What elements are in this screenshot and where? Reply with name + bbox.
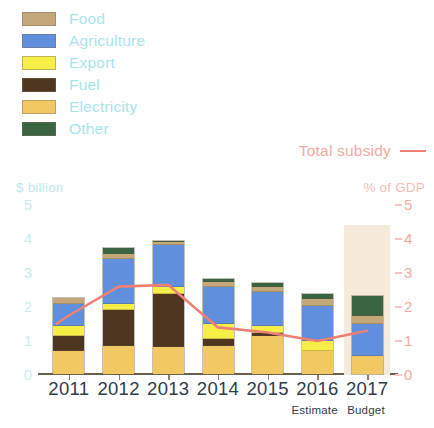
plot-area: 543210543210	[44, 205, 392, 375]
right-axis-tick-mark	[395, 374, 402, 376]
chart-legend: FoodAgricultureExportFuelElectricityOthe…	[22, 8, 252, 140]
legend-swatch-other	[22, 122, 56, 136]
x-axis-label-2012: 2012	[94, 378, 144, 400]
right-axis-tick-mark	[395, 204, 402, 206]
left-axis-tick-2: 2	[14, 299, 32, 314]
right-axis-tick-5: 5	[404, 197, 422, 212]
estimate-note: Estimate	[291, 404, 337, 416]
right-axis-title: % of GDP	[363, 180, 425, 195]
right-axis-tick-1: 1	[404, 333, 422, 348]
legend-item-other[interactable]: Other	[22, 118, 252, 139]
right-axis-tick-2: 2	[404, 299, 422, 314]
legend-swatch-electricity	[22, 100, 56, 114]
legend-swatch-agriculture	[22, 34, 56, 48]
subsidy-stacked-bar-chart: FoodAgricultureExportFuelElectricityOthe…	[0, 0, 434, 428]
x-axis-label-2017: 2017	[342, 378, 392, 400]
right-axis-tick-mark	[395, 306, 402, 308]
left-axis-tick-1: 1	[14, 333, 32, 348]
total-subsidy-legend-line	[400, 150, 426, 152]
total-subsidy-line	[44, 205, 392, 375]
right-axis-tick-0: 0	[404, 367, 422, 382]
legend-item-export[interactable]: Export	[22, 52, 252, 73]
x-axis-label-2015: 2015	[243, 378, 293, 400]
legend-swatch-fuel	[22, 78, 56, 92]
legend-item-agriculture[interactable]: Agriculture	[22, 30, 252, 51]
legend-label: Other	[69, 121, 109, 137]
legend-item-food[interactable]: Food	[22, 8, 252, 29]
left-axis-title: $ billion	[16, 180, 64, 195]
right-axis-tick-3: 3	[404, 265, 422, 280]
total-subsidy-legend-label: Total subsidy	[299, 142, 391, 160]
legend-swatch-food	[22, 12, 56, 26]
legend-item-fuel[interactable]: Fuel	[22, 74, 252, 95]
legend-swatch-export	[22, 56, 56, 70]
total-subsidy-legend-key: Total subsidy	[299, 142, 426, 160]
right-axis-tick-mark	[395, 340, 402, 342]
x-axis-label-2014: 2014	[193, 378, 243, 400]
left-axis-tick-4: 4	[14, 231, 32, 246]
right-axis-tick-mark	[395, 238, 402, 240]
legend-label: Export	[69, 55, 115, 71]
left-axis-tick-0: 0	[14, 367, 32, 382]
legend-label: Fuel	[69, 77, 100, 93]
right-axis-tick-mark	[395, 272, 402, 274]
x-axis-labels: 2011201220132014201520162017	[44, 378, 392, 404]
budget-note: Budget	[347, 404, 385, 416]
legend-label: Agriculture	[69, 33, 145, 49]
left-axis-tick-5: 5	[14, 197, 32, 212]
legend-item-electricity[interactable]: Electricity	[22, 96, 252, 117]
x-axis-label-2016: 2016	[292, 378, 342, 400]
x-axis-label-2011: 2011	[44, 378, 94, 400]
left-axis-tick-3: 3	[14, 265, 32, 280]
right-axis-tick-4: 4	[404, 231, 422, 246]
x-axis-label-2013: 2013	[143, 378, 193, 400]
legend-label: Electricity	[69, 99, 138, 115]
legend-label: Food	[69, 11, 105, 27]
